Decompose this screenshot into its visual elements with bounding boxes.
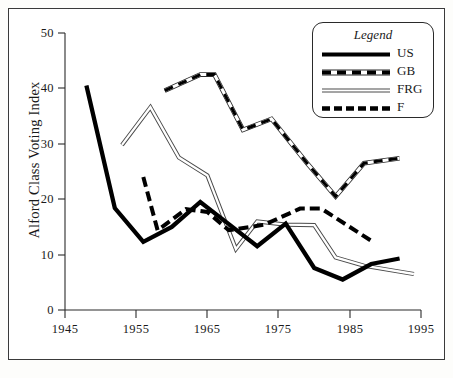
legend-key-f bbox=[321, 104, 391, 113]
x-tick-label-1955: 1955 bbox=[106, 322, 166, 337]
x-axis-ticks bbox=[65, 310, 421, 318]
legend-row-frg: FRG bbox=[321, 83, 427, 100]
x-tick-label-1985: 1985 bbox=[320, 322, 380, 337]
y-tick-label-20: 20 bbox=[14, 192, 54, 207]
x-tick-label-1995: 1995 bbox=[391, 322, 451, 337]
y-tick-label-0: 0 bbox=[14, 303, 54, 318]
x-tick-label-1975: 1975 bbox=[248, 322, 308, 337]
x-tick-label-1965: 1965 bbox=[177, 322, 237, 337]
x-tick-label-1945: 1945 bbox=[35, 322, 95, 337]
legend-row-gb: GB bbox=[321, 65, 427, 82]
series-line-frg bbox=[122, 107, 414, 274]
legend-key-frg bbox=[321, 86, 391, 95]
y-tick-label-10: 10 bbox=[14, 248, 54, 263]
series-line-f bbox=[143, 177, 371, 241]
legend-key-gb bbox=[321, 68, 391, 77]
legend-label-gb: GB bbox=[397, 63, 415, 79]
legend: Legend US GB FRG F bbox=[312, 22, 434, 118]
legend-title: Legend bbox=[313, 27, 433, 43]
y-tick-label-40: 40 bbox=[14, 81, 54, 96]
legend-row-us: US bbox=[321, 47, 427, 64]
figure-frame: Alford Class Voting Index 50 40 30 20 10… bbox=[0, 0, 453, 378]
legend-row-f: F bbox=[321, 101, 427, 118]
y-axis-ticks bbox=[58, 33, 65, 310]
legend-key-us bbox=[321, 50, 391, 59]
legend-label-f: F bbox=[397, 99, 404, 115]
legend-label-frg: FRG bbox=[397, 81, 422, 97]
y-tick-label-50: 50 bbox=[14, 26, 54, 41]
y-tick-label-30: 30 bbox=[14, 137, 54, 152]
legend-label-us: US bbox=[397, 45, 414, 61]
